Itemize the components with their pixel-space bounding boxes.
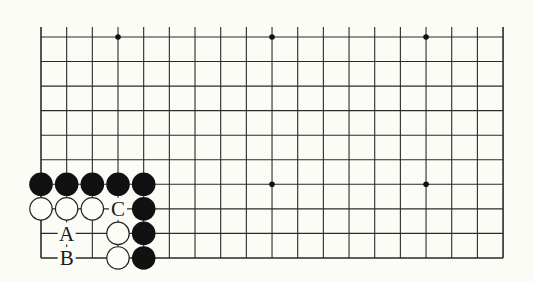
white-stone: [81, 198, 103, 220]
point-label-c: C: [111, 197, 125, 221]
white-stone: [107, 222, 129, 244]
black-stone: [132, 173, 156, 197]
black-stone: [106, 173, 130, 197]
black-stone: [132, 246, 156, 270]
point-label-b: B: [60, 246, 74, 270]
star-point-icon: [115, 34, 121, 40]
star-point-icon: [269, 182, 275, 188]
star-point-icon: [269, 34, 275, 40]
go-board-diagram: CAB: [0, 0, 533, 282]
black-stone: [81, 173, 105, 197]
black-stone: [55, 173, 79, 197]
white-stone: [30, 198, 52, 220]
black-stone: [29, 173, 53, 197]
black-stone: [132, 197, 156, 221]
white-stone: [55, 198, 77, 220]
black-stone: [132, 222, 156, 246]
white-stone: [107, 247, 129, 269]
star-point-icon: [423, 34, 429, 40]
point-label-a: A: [59, 222, 75, 246]
star-point-icon: [423, 182, 429, 188]
board-grid: [41, 27, 503, 258]
